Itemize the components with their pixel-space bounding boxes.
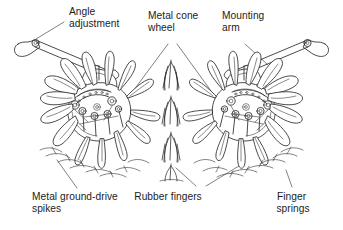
diagram-root: Angle adjustment Metal cone wheel Mounti…: [0, 0, 343, 230]
finger-wheel-diagram: Angle adjustment Metal cone wheel Mounti…: [0, 0, 343, 230]
label-finger-springs: Finger springs: [276, 191, 309, 214]
label-rubber-fingers: Rubber fingers: [134, 191, 202, 202]
